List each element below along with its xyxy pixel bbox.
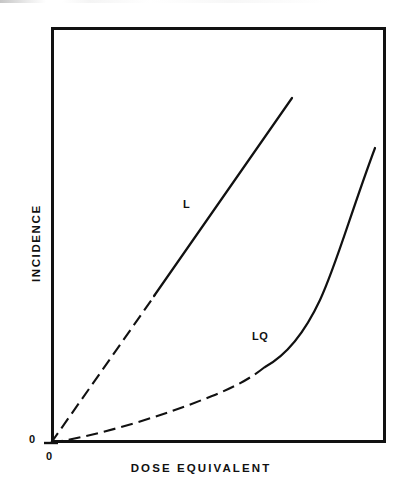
curve-label-linear-quadratic: LQ bbox=[252, 330, 268, 342]
curve-l-solid-segment bbox=[154, 98, 292, 296]
y-axis-origin-label: 0 bbox=[29, 433, 35, 445]
curve-lq-solid-segment bbox=[265, 148, 375, 367]
x-axis-title: DOSE EQUIVALENT bbox=[0, 462, 402, 474]
x-axis-origin-label: 0 bbox=[46, 450, 52, 462]
curve-label-linear: L bbox=[183, 198, 190, 210]
dose-response-figure: INCIDENCE DOSE EQUIVALENT 0 0 L LQ bbox=[0, 0, 402, 496]
plot-frame bbox=[53, 29, 385, 442]
curve-lq-dashed-segment bbox=[51, 366, 266, 443]
y-axis-title: INCIDENCE bbox=[30, 204, 42, 282]
plot-canvas bbox=[0, 0, 402, 496]
